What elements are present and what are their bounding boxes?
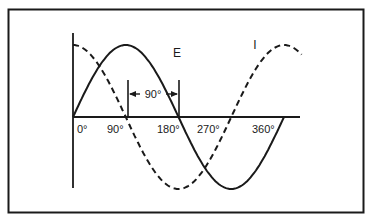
tick-label-270: 270° [197, 123, 220, 135]
phase-difference-marker: 90° [128, 80, 179, 117]
tick-label-180: 180° [157, 123, 180, 135]
tick-label-360: 360° [252, 123, 275, 135]
arrow-left-icon [129, 91, 136, 97]
arrow-right-icon [171, 91, 178, 97]
curve-label-i: I [253, 38, 256, 52]
tick-label-90: 90° [107, 123, 124, 135]
phase-diagram: 90° E I 0° 90° 180° 270° 360° [0, 0, 370, 221]
curve-label-e: E [173, 46, 181, 60]
phase-label: 90° [145, 88, 162, 100]
figure-border [9, 10, 364, 213]
tick-label-0: 0° [77, 123, 88, 135]
